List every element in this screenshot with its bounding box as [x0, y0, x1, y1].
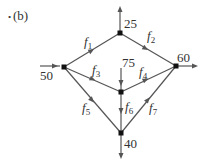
label-f1: f1	[84, 34, 92, 51]
label-f3: f3	[92, 62, 101, 79]
figure-label: (b)	[13, 8, 28, 23]
arrow-out-top-icon	[118, 6, 123, 12]
flow-in-left-value: 50	[40, 68, 53, 83]
label-f7: f7	[149, 100, 158, 117]
arrow-out-bottom-icon	[119, 153, 124, 159]
label-f2: f2	[147, 28, 155, 45]
network-flow-diagram: • (b) 50 25 60 75 40 f1 f2 f3 f4 f5 f6 f…	[0, 0, 206, 165]
flow-out-right-value: 60	[177, 50, 190, 65]
label-f4: f4	[139, 64, 148, 81]
arrow-out-right-icon	[192, 64, 198, 69]
figure-bullet: •	[8, 12, 11, 22]
node-c	[174, 64, 179, 69]
flow-out-bottom-value: 40	[124, 136, 137, 151]
arrow-f6-icon	[119, 108, 124, 114]
label-f5: f5	[82, 100, 91, 117]
flow-in-center-value: 75	[122, 55, 135, 70]
arrow-in-center-icon	[119, 80, 124, 86]
label-f6: f6	[125, 99, 134, 116]
node-b	[118, 31, 123, 36]
node-e	[119, 131, 124, 136]
node-a	[62, 65, 67, 70]
node-d	[119, 90, 124, 95]
flow-out-top-value: 25	[124, 16, 137, 31]
